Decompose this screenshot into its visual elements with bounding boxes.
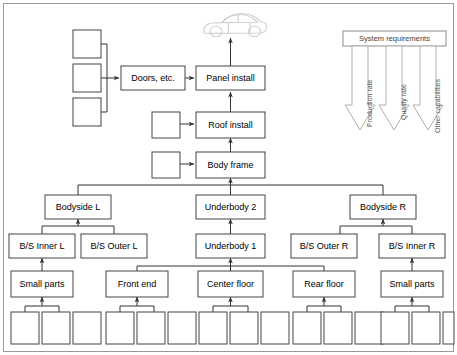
assembly-hierarchy-diagram: Doors, etc. Panel install Roof install B… <box>0 0 457 355</box>
empty-box-part-3 <box>73 312 101 344</box>
node-box-underbody-2 <box>196 195 265 219</box>
node-box-front-end <box>106 271 168 297</box>
empty-box-part-13 <box>381 312 409 344</box>
node-box-center-floor <box>198 271 263 297</box>
system-requirements-label: System requirements <box>343 31 446 46</box>
empty-box-part-7 <box>199 312 227 344</box>
empty-box-part-10 <box>293 312 321 344</box>
empty-box-part-4 <box>106 312 134 344</box>
node-box-bs-outer-l <box>81 234 147 258</box>
node-box-panel-install <box>196 66 265 90</box>
requirement-label-production-rate: Production rate <box>366 80 373 127</box>
empty-box-part-8 <box>230 312 258 344</box>
node-box-bs-inner-r <box>379 234 445 258</box>
empty-box-part-15 <box>443 312 454 344</box>
node-box-rear-floor <box>293 271 355 297</box>
empty-box-part-6 <box>168 312 196 344</box>
node-box-bs-outer-r <box>291 234 357 258</box>
empty-box-bodyframe <box>152 152 180 178</box>
empty-box-part-1 <box>11 312 39 344</box>
diagram-canvas <box>0 0 457 355</box>
node-box-bs-inner-l <box>9 234 75 258</box>
node-box-roof-install <box>196 112 265 138</box>
node-box-doors <box>121 66 185 90</box>
empty-box-part-9 <box>261 312 289 344</box>
node-box-bodyside-l <box>45 195 111 219</box>
requirement-label-other-capabilities: Other capabilities <box>434 79 441 133</box>
empty-box-part-14 <box>412 312 440 344</box>
node-box-body-frame <box>196 152 265 178</box>
node-box-bodyside-r <box>350 195 416 219</box>
requirement-label-quality-rate: Quality rate <box>400 84 407 120</box>
empty-box-part-12 <box>355 312 383 344</box>
car-side-icon <box>204 14 267 37</box>
node-box-small-parts-r <box>381 271 443 297</box>
empty-box-doors-3 <box>73 98 101 126</box>
empty-box-roof <box>152 112 180 138</box>
empty-box-part-5 <box>137 312 165 344</box>
empty-box-doors-2 <box>73 64 101 92</box>
empty-box-part-2 <box>42 312 70 344</box>
empty-box-doors-1 <box>73 30 101 58</box>
empty-box-part-11 <box>324 312 352 344</box>
node-box-small-parts-l <box>11 271 73 297</box>
node-box-underbody-1 <box>196 234 265 258</box>
